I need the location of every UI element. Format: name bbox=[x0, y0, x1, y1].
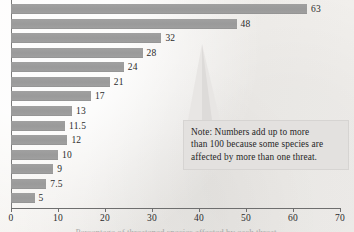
bar-value-label: 9 bbox=[57, 164, 62, 174]
bar-value-label: 48 bbox=[241, 18, 251, 28]
bar-chart: 634832282421171311.5121097.55 Note: Numb… bbox=[0, 0, 354, 232]
y-axis-label-fragment bbox=[0, 151, 8, 157]
bar[interactable] bbox=[11, 91, 91, 101]
bar-value-label: 21 bbox=[114, 77, 124, 87]
x-axis-line bbox=[11, 208, 341, 209]
y-axis-label-fragment bbox=[0, 35, 8, 41]
bar-value-label: 28 bbox=[147, 48, 157, 58]
bar-value-label: 11.5 bbox=[69, 120, 86, 130]
bar[interactable] bbox=[11, 106, 72, 116]
y-axis-label-fragment bbox=[0, 79, 8, 85]
bar-value-label: 13 bbox=[76, 106, 86, 116]
x-axis-tick-label: 30 bbox=[147, 213, 157, 223]
x-axis-tick-label: 20 bbox=[100, 213, 110, 223]
y-axis-line bbox=[11, 0, 12, 209]
x-axis-tick-label: 0 bbox=[9, 213, 14, 223]
y-axis-label-fragment bbox=[0, 6, 8, 12]
x-axis-tick-label: 10 bbox=[53, 213, 63, 223]
y-axis-label-fragment bbox=[0, 122, 8, 128]
bar-row: 63 bbox=[11, 4, 340, 14]
y-axis-label-fragment bbox=[0, 180, 8, 186]
bar[interactable] bbox=[11, 121, 65, 131]
y-axis-label-fragment bbox=[0, 195, 8, 201]
bar-value-label: 10 bbox=[62, 149, 72, 159]
x-axis-tick bbox=[58, 208, 59, 212]
bar-value-label: 5 bbox=[39, 193, 44, 203]
bar-value-label: 12 bbox=[71, 135, 81, 145]
x-axis-tick bbox=[246, 208, 247, 212]
x-axis-tick-label: 60 bbox=[288, 213, 298, 223]
bar-value-label: 17 bbox=[95, 91, 105, 101]
x-axis-title-cropped: Percentage of threatened species affecte… bbox=[11, 227, 341, 232]
note-callout: Note: Numbers add up to more than 100 be… bbox=[183, 120, 349, 170]
x-axis-tick bbox=[340, 208, 341, 212]
bar[interactable] bbox=[11, 179, 46, 189]
bar[interactable] bbox=[11, 164, 53, 174]
bar[interactable] bbox=[11, 19, 237, 29]
bar-row: 7.5 bbox=[11, 179, 340, 189]
bar-value-label: 63 bbox=[311, 4, 321, 14]
note-pointer-icon bbox=[176, 44, 222, 122]
y-axis-label-fragment bbox=[0, 21, 8, 27]
bar-row: 32 bbox=[11, 33, 340, 43]
bar-row: 48 bbox=[11, 19, 340, 29]
bar[interactable] bbox=[11, 135, 67, 145]
y-axis-label-fragment bbox=[0, 108, 8, 114]
y-axis-label-fragment bbox=[0, 50, 8, 56]
x-axis-tick-label: 50 bbox=[241, 213, 251, 223]
bar-row: 5 bbox=[11, 193, 340, 203]
x-axis-tick bbox=[105, 208, 106, 212]
x-axis-tick bbox=[199, 208, 200, 212]
bar-value-label: 32 bbox=[165, 33, 175, 43]
bar[interactable] bbox=[11, 77, 110, 87]
note-line-3: affected by more than one threat. bbox=[191, 151, 341, 163]
bar[interactable] bbox=[11, 4, 307, 14]
bar[interactable] bbox=[11, 62, 124, 72]
bar-value-label: 7.5 bbox=[50, 179, 62, 189]
note-line-1: Note: Numbers add up to more bbox=[191, 126, 341, 138]
bar-value-label: 24 bbox=[128, 62, 138, 72]
x-axis-tick bbox=[152, 208, 153, 212]
x-axis-tick bbox=[11, 208, 12, 212]
y-axis-label-fragment bbox=[0, 166, 8, 172]
y-axis-label-fragment bbox=[0, 93, 8, 99]
y-axis-label-fragment bbox=[0, 137, 8, 143]
bar[interactable] bbox=[11, 150, 58, 160]
note-line-2: than 100 because some species are bbox=[191, 138, 341, 150]
bar[interactable] bbox=[11, 193, 35, 203]
bar[interactable] bbox=[11, 33, 161, 43]
y-axis-label-fragment bbox=[0, 64, 8, 70]
x-axis-tick-label: 40 bbox=[194, 213, 204, 223]
x-axis-tick bbox=[293, 208, 294, 212]
x-axis-tick-label: 70 bbox=[335, 213, 345, 223]
bar[interactable] bbox=[11, 48, 143, 58]
